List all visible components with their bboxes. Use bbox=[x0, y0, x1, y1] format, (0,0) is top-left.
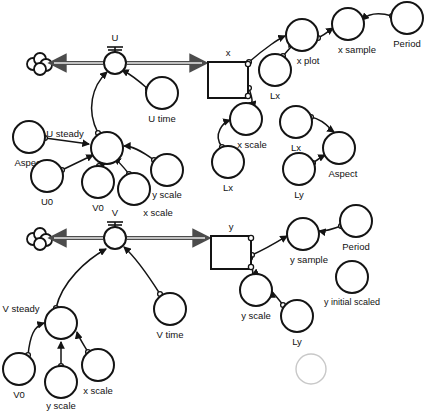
variable-v0-top[interactable]: V0 bbox=[82, 166, 114, 213]
variable-label: Ly bbox=[294, 189, 304, 200]
variable-ly-aspect[interactable]: Ly bbox=[283, 153, 315, 200]
variable-u-time[interactable]: U time bbox=[146, 77, 178, 124]
causal-link bbox=[45, 138, 89, 144]
variable-circle[interactable] bbox=[82, 166, 114, 198]
stock-port-top bbox=[245, 61, 250, 66]
variable-circle[interactable] bbox=[146, 77, 178, 109]
variable-label: V0 bbox=[13, 389, 25, 400]
variable-circle[interactable] bbox=[91, 132, 123, 164]
variable-label: Lx bbox=[270, 90, 280, 101]
causal-link bbox=[252, 236, 287, 255]
variable-period-bottom[interactable]: Period bbox=[340, 205, 372, 252]
variable-circle[interactable] bbox=[336, 261, 368, 293]
variable-circle[interactable] bbox=[259, 54, 291, 86]
variable-v-time[interactable]: V time bbox=[154, 293, 186, 340]
variable-label: x plot bbox=[297, 55, 320, 66]
variable-circle[interactable] bbox=[13, 121, 45, 153]
variable-v0-bottom[interactable]: V0 bbox=[3, 353, 35, 400]
variable-circle[interactable] bbox=[230, 103, 262, 135]
variable-faint-node[interactable] bbox=[296, 354, 326, 384]
variable-circle[interactable] bbox=[212, 146, 244, 178]
variable-label: x scale bbox=[237, 139, 267, 150]
stock-x[interactable]: x bbox=[208, 47, 251, 99]
stock-y[interactable]: y bbox=[211, 221, 254, 270]
variable-label: V0 bbox=[92, 202, 104, 213]
variable-circle[interactable] bbox=[45, 307, 77, 339]
variable-label: x scale bbox=[83, 385, 113, 396]
causal-link bbox=[311, 117, 334, 132]
valve-U[interactable]: U bbox=[104, 32, 126, 74]
variable-circle[interactable] bbox=[286, 19, 318, 51]
variable-circle[interactable] bbox=[280, 106, 312, 138]
variable-u0[interactable]: U0 bbox=[31, 160, 63, 207]
variable-y-sample[interactable]: y sample bbox=[287, 218, 328, 265]
valve-V[interactable]: V bbox=[104, 207, 126, 249]
variable-lx-plot[interactable]: Lx bbox=[259, 54, 291, 101]
variable-x-plot[interactable]: x plot bbox=[286, 19, 320, 66]
variable-circle[interactable] bbox=[287, 218, 319, 250]
variable-circle[interactable] bbox=[283, 153, 315, 185]
causal-link bbox=[56, 249, 106, 308]
variable-label: x scale bbox=[143, 207, 173, 218]
variable-label: Lx bbox=[223, 182, 233, 193]
variable-circle[interactable] bbox=[323, 132, 355, 164]
variable-label: U steady bbox=[46, 128, 84, 139]
stock-box[interactable] bbox=[211, 236, 251, 269]
variable-label: U0 bbox=[41, 196, 53, 207]
valve-label: V bbox=[112, 207, 119, 218]
variable-lx-aspect[interactable]: Lx bbox=[280, 106, 312, 153]
variable-period-top[interactable]: Period bbox=[391, 2, 423, 49]
variable-ly-scale[interactable]: Ly bbox=[281, 300, 313, 347]
variable-circle[interactable] bbox=[296, 354, 326, 384]
causal-link bbox=[124, 247, 160, 294]
variable-circle[interactable] bbox=[45, 366, 77, 398]
variable-label: y scale bbox=[241, 310, 271, 321]
stock-box[interactable] bbox=[208, 62, 248, 98]
causal-link bbox=[62, 155, 93, 170]
variable-label: Aspect bbox=[328, 168, 357, 179]
variable-circle[interactable] bbox=[240, 274, 272, 306]
causal-link bbox=[77, 332, 88, 352]
variable-y-initial-scaled[interactable]: y initial scaled bbox=[324, 261, 380, 307]
variable-circle[interactable] bbox=[31, 160, 63, 192]
variable-label: y initial scaled bbox=[324, 297, 380, 307]
valve-label: U bbox=[112, 32, 119, 43]
variable-circle[interactable] bbox=[118, 173, 150, 205]
stock-port-bottom bbox=[245, 93, 250, 98]
variable-label: y sample bbox=[290, 254, 328, 265]
causal-link bbox=[124, 146, 154, 160]
causal-link bbox=[28, 323, 44, 355]
variable-circle[interactable] bbox=[340, 205, 372, 237]
variable-label: V time bbox=[157, 329, 184, 340]
variable-circle[interactable] bbox=[332, 8, 364, 40]
variable-y-scale-right[interactable]: y scale bbox=[240, 274, 272, 321]
causal-link bbox=[92, 72, 107, 133]
variable-label: x sample bbox=[338, 44, 376, 55]
diagram-canvas: xy UV U timeU steadyAspectU0V0x scaley s… bbox=[0, 0, 433, 416]
variable-y-scale-top[interactable]: y scale bbox=[151, 154, 183, 200]
variable-label: V steady bbox=[3, 303, 40, 314]
cloud-cloud-u bbox=[27, 53, 52, 75]
variable-circle[interactable] bbox=[281, 300, 313, 332]
valve-circle[interactable] bbox=[104, 227, 126, 249]
valve-circle[interactable] bbox=[104, 52, 126, 74]
stock-port-top bbox=[248, 235, 253, 240]
variable-label: Lx bbox=[291, 142, 301, 153]
variable-x-scale-mid[interactable]: x scale bbox=[230, 103, 267, 150]
variable-circle[interactable] bbox=[391, 2, 423, 34]
causal-link bbox=[362, 14, 392, 20]
variable-circle[interactable] bbox=[151, 154, 183, 186]
variable-aspect-right[interactable]: Aspect bbox=[323, 132, 358, 179]
variable-y-scale-bottom[interactable]: y scale bbox=[45, 366, 77, 411]
variable-circle[interactable] bbox=[82, 349, 114, 381]
variable-circle[interactable] bbox=[154, 293, 186, 325]
variable-x-scale-bottom[interactable]: x scale bbox=[82, 349, 114, 396]
stock-label: x bbox=[226, 47, 231, 58]
causal-link bbox=[122, 70, 148, 89]
variable-label: Period bbox=[342, 241, 369, 252]
variable-circle[interactable] bbox=[3, 353, 35, 385]
variable-lx-scale[interactable]: Lx bbox=[212, 146, 244, 193]
variable-v-steady[interactable]: V steady bbox=[3, 303, 77, 339]
stock-port-bottom bbox=[248, 264, 253, 269]
variable-label: Period bbox=[393, 38, 420, 49]
